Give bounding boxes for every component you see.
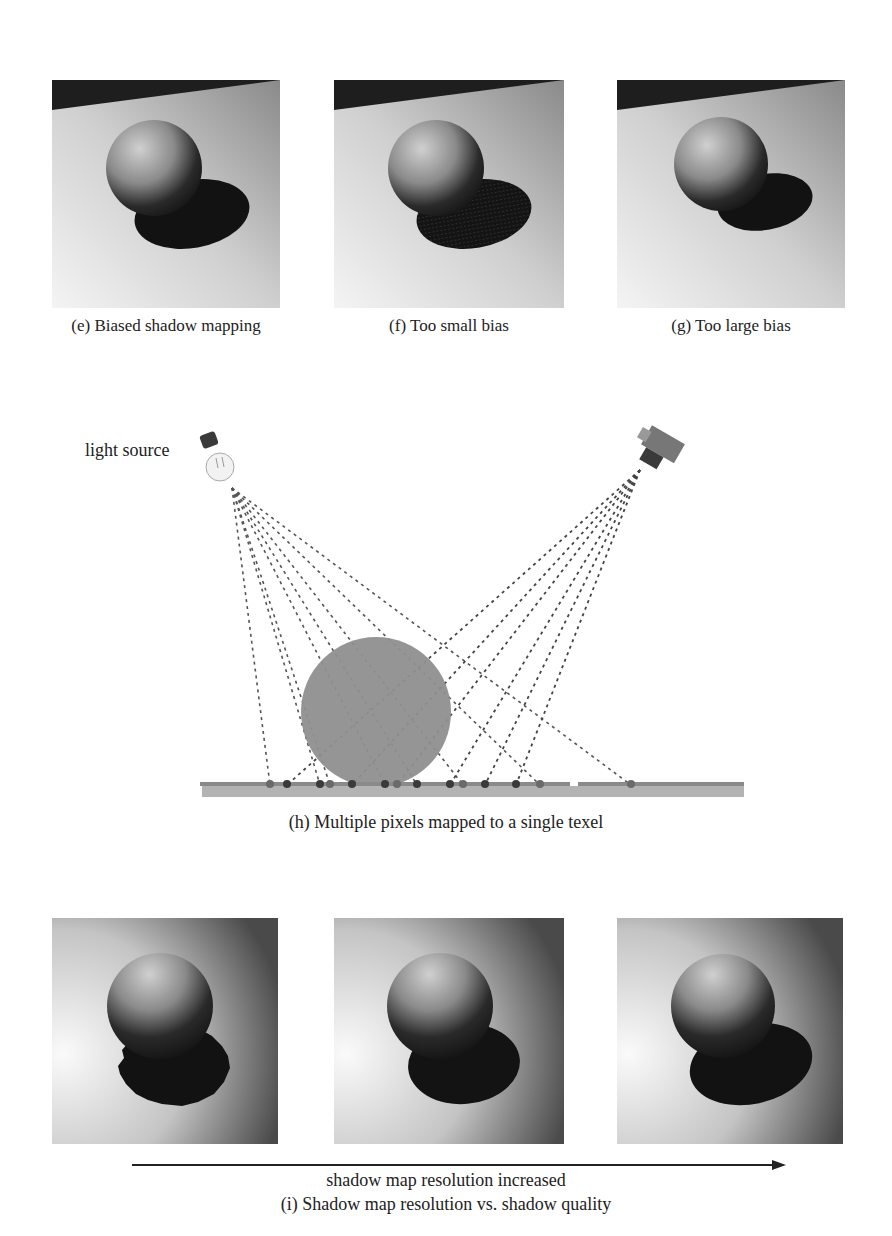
rendered-scene-medium-res bbox=[334, 918, 564, 1144]
rendered-scene-e bbox=[52, 80, 280, 308]
light-bulb-icon bbox=[199, 431, 234, 481]
rendered-scene-g bbox=[617, 80, 845, 308]
arrow-label: shadow map resolution increased bbox=[0, 1170, 892, 1191]
camera-icon bbox=[628, 422, 685, 476]
panel-i-high-resolution bbox=[617, 918, 843, 1144]
rendered-scene-high-res bbox=[617, 918, 843, 1144]
panel-i-low-resolution bbox=[52, 918, 278, 1144]
arrowhead-icon bbox=[772, 1160, 786, 1170]
texel-mapping-diagram bbox=[0, 420, 892, 840]
rendered-scene-f bbox=[334, 80, 564, 308]
floor-plane bbox=[200, 782, 744, 797]
panel-e-biased-shadow-mapping bbox=[52, 80, 280, 308]
occluder-sphere bbox=[301, 637, 451, 787]
caption-h: (h) Multiple pixels mapped to a single t… bbox=[0, 812, 892, 833]
caption-e: (e) Biased shadow mapping bbox=[52, 316, 280, 336]
panel-f-too-small-bias bbox=[334, 80, 564, 308]
panel-g-too-large-bias bbox=[617, 80, 845, 308]
rendered-scene-low-res bbox=[52, 918, 278, 1144]
caption-i: (i) Shadow map resolution vs. shadow qua… bbox=[0, 1194, 892, 1215]
panel-i-medium-resolution bbox=[334, 918, 564, 1144]
caption-g: (g) Too large bias bbox=[617, 316, 845, 336]
caption-f: (f) Too small bias bbox=[334, 316, 564, 336]
